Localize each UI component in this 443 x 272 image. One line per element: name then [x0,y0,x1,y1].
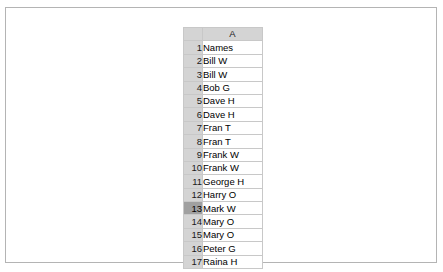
cell-A10[interactable]: Frank W [203,161,263,174]
spreadsheet-row[interactable]: 1Names [184,41,263,54]
row-header-9[interactable]: 9 [184,148,203,161]
row-header-6[interactable]: 6 [184,108,203,121]
cell-A11[interactable]: George H [203,175,263,188]
spreadsheet-header-row: A [184,28,263,41]
select-all-corner-cell[interactable] [184,28,203,41]
spreadsheet-row[interactable]: 12Harry O [184,188,263,201]
spreadsheet-row[interactable]: 9Frank W [184,148,263,161]
spreadsheet-grid[interactable]: A 1Names2Bill W3Bill W4Bob G5Dave H6Dave… [183,27,263,269]
column-header-row: A [184,28,263,41]
row-header-7[interactable]: 7 [184,121,203,134]
spreadsheet-row[interactable]: 15Mary O [184,228,263,241]
row-header-17[interactable]: 17 [184,255,203,268]
cell-A6[interactable]: Dave H [203,108,263,121]
row-header-2[interactable]: 2 [184,54,203,67]
spreadsheet-row[interactable]: 16Peter G [184,242,263,255]
spreadsheet-row[interactable]: 8Fran T [184,135,263,148]
row-header-13[interactable]: 13 [184,202,203,215]
cell-A1[interactable]: Names [203,41,263,54]
cell-A7[interactable]: Fran T [203,121,263,134]
figure-frame: A 1Names2Bill W3Bill W4Bob G5Dave H6Dave… [5,7,437,263]
row-header-11[interactable]: 11 [184,175,203,188]
cell-A15[interactable]: Mary O [203,228,263,241]
cell-A5[interactable]: Dave H [203,94,263,107]
row-header-16[interactable]: 16 [184,242,203,255]
cell-A8[interactable]: Fran T [203,135,263,148]
row-header-12[interactable]: 12 [184,188,203,201]
cell-A2[interactable]: Bill W [203,54,263,67]
screenshot-canvas: A 1Names2Bill W3Bill W4Bob G5Dave H6Dave… [0,0,443,272]
column-header-a[interactable]: A [203,28,263,41]
spreadsheet-row[interactable]: 11George H [184,175,263,188]
spreadsheet-row[interactable]: 5Dave H [184,94,263,107]
spreadsheet-row[interactable]: 10Frank W [184,161,263,174]
cell-A9[interactable]: Frank W [203,148,263,161]
spreadsheet-row[interactable]: 2Bill W [184,54,263,67]
spreadsheet-row[interactable]: 14Mary O [184,215,263,228]
cell-A13[interactable]: Mark W [203,202,263,215]
row-header-15[interactable]: 15 [184,228,203,241]
cell-A17[interactable]: Raina H [203,255,263,268]
spreadsheet-row[interactable]: 4Bob G [184,81,263,94]
row-header-5[interactable]: 5 [184,94,203,107]
row-header-8[interactable]: 8 [184,135,203,148]
cell-A4[interactable]: Bob G [203,81,263,94]
spreadsheet-body: 1Names2Bill W3Bill W4Bob G5Dave H6Dave H… [184,41,263,269]
spreadsheet-row[interactable]: 3Bill W [184,68,263,81]
row-header-1[interactable]: 1 [184,41,203,54]
cell-A3[interactable]: Bill W [203,68,263,81]
cell-A14[interactable]: Mary O [203,215,263,228]
spreadsheet-row[interactable]: 13Mark W [184,202,263,215]
row-header-14[interactable]: 14 [184,215,203,228]
row-header-3[interactable]: 3 [184,68,203,81]
spreadsheet-row[interactable]: 7Fran T [184,121,263,134]
cell-A16[interactable]: Peter G [203,242,263,255]
row-header-10[interactable]: 10 [184,161,203,174]
spreadsheet-row[interactable]: 6Dave H [184,108,263,121]
cell-A12[interactable]: Harry O [203,188,263,201]
spreadsheet-row[interactable]: 17Raina H [184,255,263,268]
row-header-4[interactable]: 4 [184,81,203,94]
